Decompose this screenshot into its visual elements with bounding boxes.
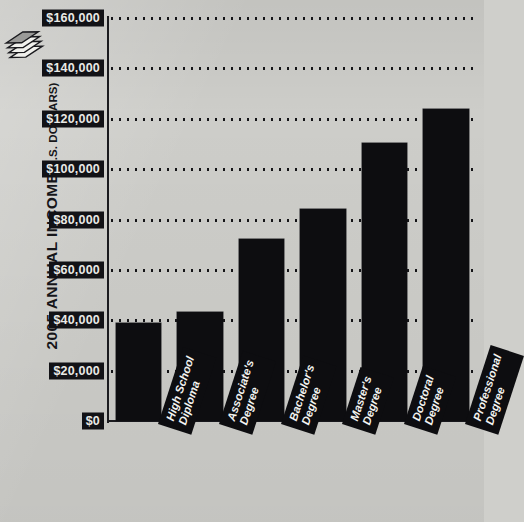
y-axis-tick-label: $0 <box>82 413 104 430</box>
y-axis-tick-label: $120,000 <box>42 110 104 127</box>
y-axis-tick-label: $160,000 <box>42 10 104 27</box>
gridline <box>108 168 476 171</box>
y-axis-tick-label: $40,000 <box>49 312 104 329</box>
gridline <box>108 269 476 272</box>
y-axis-tick-label: $20,000 <box>49 362 104 379</box>
gridline <box>108 17 476 20</box>
y-axis-tick-label: $60,000 <box>49 261 104 278</box>
gridline <box>108 319 476 322</box>
bar[interactable] <box>116 323 162 421</box>
gridline <box>108 219 476 222</box>
gridline <box>108 67 476 70</box>
y-axis-tick-labels: $160,000$140,000$120,000$100,000$80,000$… <box>0 0 104 522</box>
y-axis-tick-label: $100,000 <box>42 161 104 178</box>
y-axis-tick-label: $140,000 <box>42 60 104 77</box>
plot-area <box>108 18 476 421</box>
gridline <box>108 118 476 121</box>
y-axis-tick-label: $80,000 <box>49 211 104 228</box>
